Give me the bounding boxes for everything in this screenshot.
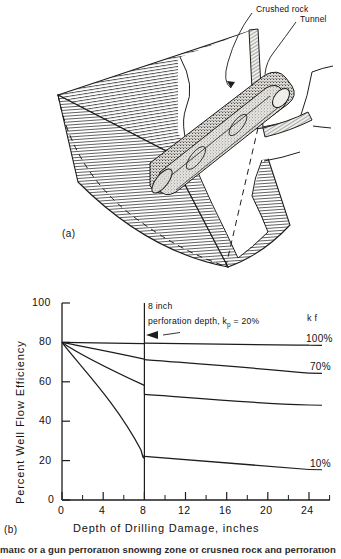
series-curve-10 [62, 342, 309, 469]
callout-label-crushed-rock: Crushed rock [256, 4, 308, 14]
perforation-diagram [0, 0, 341, 272]
series-label-100: 100% [306, 333, 333, 344]
x-tick-label-16: 16 [219, 504, 231, 516]
series-curve-70 [62, 342, 309, 373]
y-axis-ticks [62, 303, 70, 500]
y-axis-title: Percent Well Flow Efficiency [14, 340, 26, 504]
series-curve-unlabeled [62, 342, 309, 405]
figure-caption-cropped: matic of a gun perforation showing zone … [0, 548, 341, 559]
annotation-line-2: perforation depth, kp = 20% [148, 316, 259, 328]
annotation-arrow [163, 333, 180, 336]
y-tick-label-60: 60 [39, 375, 51, 387]
panel-a-tag: (a) [62, 228, 75, 239]
y-tick-label-20: 20 [39, 454, 51, 466]
y-tick-label-40: 40 [39, 414, 51, 426]
annotation-line-2-tail: = 20% [231, 316, 260, 326]
annotation-line-2-text: perforation depth, k [148, 316, 227, 326]
series-curve-100 [62, 342, 309, 345]
panel-b-tag: (b) [4, 524, 17, 535]
annotation-arrowhead [146, 331, 158, 339]
x-axis-title: Depth of Drilling Damage, inches [73, 522, 259, 534]
panel-a-perforation-schematic: Crushed rock Tunnel (a) [0, 0, 341, 272]
figure-caption-text: matic of a gun perforation showing zone … [0, 548, 341, 555]
x-tick-label-12: 12 [178, 504, 190, 516]
x-tick-label-0: 0 [58, 504, 64, 516]
x-tick-label-4: 4 [99, 504, 105, 516]
x-axis-ticks-major [62, 492, 309, 500]
x-tick-label-8: 8 [140, 504, 146, 516]
series-label-10: 10% [310, 458, 331, 469]
x-axis-ticks-minor [83, 495, 330, 500]
series-label-70: 70% [310, 361, 331, 372]
y-tick-label-80: 80 [39, 335, 51, 347]
x-tick-label-24: 24 [301, 504, 313, 516]
panel-b-flow-efficiency-chart: Percent Well Flow Efficiency [0, 272, 341, 559]
axis-lines [62, 303, 330, 500]
y-tick-label-100: 100 [32, 296, 51, 308]
y-tick-label-0: 0 [48, 493, 54, 505]
annotation-line-1: 8 inch [148, 301, 172, 311]
x-tick-label-20: 20 [260, 504, 272, 516]
callout-label-tunnel: Tunnel [300, 14, 327, 24]
legend-header: k f [307, 313, 317, 323]
